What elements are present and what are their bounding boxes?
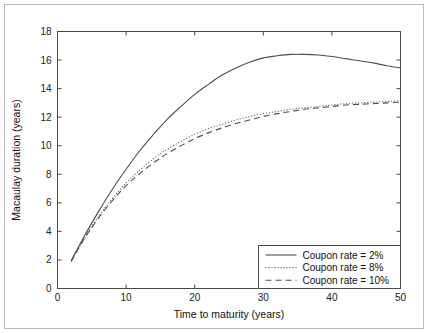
legend-label-0: Coupon rate = 2%	[303, 250, 384, 261]
x-tick-label: 10	[121, 292, 133, 303]
x-axis-title: Time to maturity (years)	[174, 308, 284, 320]
y-tick-label: 6	[46, 197, 52, 208]
y-tick-label: 8	[46, 169, 52, 180]
legend-label-2: Coupon rate = 10%	[303, 275, 390, 286]
x-tick-label: 20	[189, 292, 201, 303]
series-line-2	[71, 102, 400, 261]
macaulay-duration-chart: 01020304050024681012141618Time to maturi…	[0, 0, 437, 333]
series-line-0	[71, 54, 400, 260]
x-tick-label: 30	[258, 292, 270, 303]
chart-canvas: 01020304050024681012141618Time to maturi…	[0, 0, 437, 333]
y-tick-label: 0	[46, 283, 52, 294]
x-tick-label: 40	[326, 292, 338, 303]
y-axis-title: Macaulay duration (years)	[10, 99, 22, 220]
x-tick-label: 50	[395, 292, 407, 303]
y-tick-label: 16	[40, 55, 52, 66]
series-line-1	[71, 101, 400, 262]
y-tick-label: 14	[40, 83, 52, 94]
y-tick-label: 2	[46, 254, 52, 265]
y-tick-label: 12	[40, 112, 52, 123]
legend-label-1: Coupon rate = 8%	[303, 262, 384, 273]
y-tick-label: 4	[46, 226, 52, 237]
y-tick-label: 18	[40, 26, 52, 37]
x-tick-label: 0	[55, 292, 61, 303]
y-tick-label: 10	[40, 140, 52, 151]
